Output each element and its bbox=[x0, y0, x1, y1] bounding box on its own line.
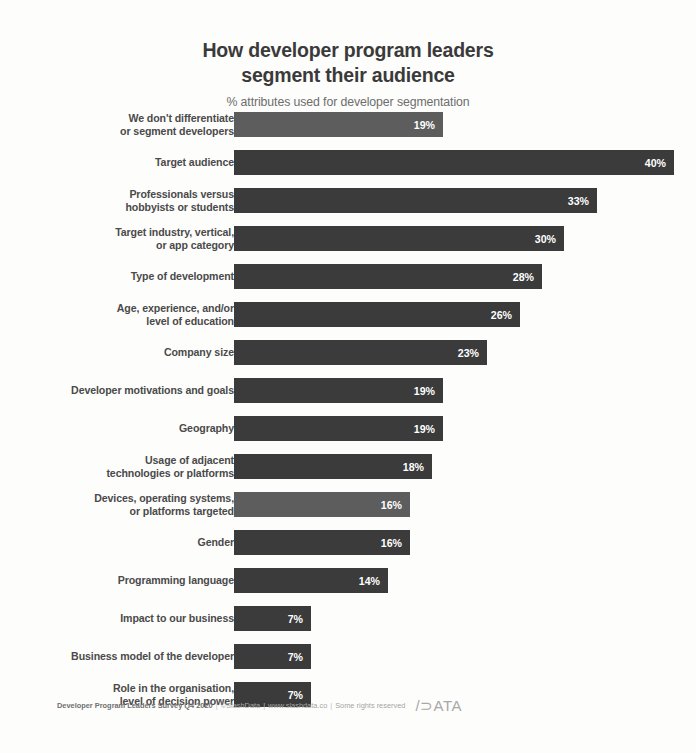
bar-category-label-line-1: Role in the organisation, bbox=[113, 682, 234, 694]
footer-copyright: ©SlashData bbox=[221, 701, 261, 710]
bar-category-label-line-1: Geography bbox=[179, 422, 234, 434]
bar-track: 33% bbox=[234, 188, 684, 213]
bar-category-label: Impact to our business bbox=[22, 606, 234, 625]
bar-value-label: 28% bbox=[513, 271, 534, 283]
footer-rights: Some rights reserved bbox=[335, 701, 405, 710]
bar-track: 7% bbox=[234, 606, 684, 631]
bar-value-label: 14% bbox=[359, 575, 380, 587]
bar-track: 19% bbox=[234, 112, 684, 137]
chart-figure: How developer program leaders segment th… bbox=[0, 0, 696, 753]
bar-track: 7% bbox=[234, 644, 684, 669]
bar-row: Geography19% bbox=[0, 416, 696, 454]
bar[interactable]: 16% bbox=[234, 492, 410, 517]
bar-category-label: Geography bbox=[22, 416, 234, 435]
bar-track: 19% bbox=[234, 416, 684, 441]
bar-track: 26% bbox=[234, 302, 684, 327]
slashdata-logo: /⊃ATA bbox=[415, 698, 462, 713]
bar-track: 18% bbox=[234, 454, 684, 479]
bar-category-label: Programming language bbox=[22, 568, 234, 587]
bar-value-label: 26% bbox=[491, 309, 512, 321]
bar-category-label-line-1: Target audience bbox=[155, 156, 234, 168]
bar-row: Target industry, vertical,or app categor… bbox=[0, 226, 696, 264]
bar-row: Type of development28% bbox=[0, 264, 696, 302]
bar[interactable]: 19% bbox=[234, 378, 443, 403]
bar[interactable]: 19% bbox=[234, 416, 443, 441]
bar-value-label: 19% bbox=[414, 385, 435, 397]
bar-value-label: 33% bbox=[568, 195, 589, 207]
bar-category-label: Company size bbox=[22, 340, 234, 359]
bar[interactable]: 26% bbox=[234, 302, 520, 327]
bar[interactable]: 23% bbox=[234, 340, 487, 365]
chart-footer: Developer Program Leaders Survey Q4 2020… bbox=[57, 698, 657, 713]
page-title: How developer program leaders segment th… bbox=[0, 38, 696, 88]
bar-row: Usage of adjacenttechnologies or platfor… bbox=[0, 454, 696, 492]
bar[interactable]: 33% bbox=[234, 188, 597, 213]
bar-row: Target audience40% bbox=[0, 150, 696, 188]
bar-category-label: Type of development bbox=[22, 264, 234, 283]
bar-value-label: 7% bbox=[288, 613, 303, 625]
bar-value-label: 23% bbox=[458, 347, 479, 359]
bar-track: 28% bbox=[234, 264, 684, 289]
bar-category-label: Business model of the developer bbox=[22, 644, 234, 663]
bar-row: Gender16% bbox=[0, 530, 696, 568]
bar[interactable]: 14% bbox=[234, 568, 388, 593]
bar-category-label: Age, experience, and/orlevel of educatio… bbox=[22, 302, 234, 328]
bar-category-label-line-2: or platforms targeted bbox=[130, 505, 234, 517]
bar-category-label-line-2: or app category bbox=[156, 239, 234, 251]
bar-category-label: Gender bbox=[22, 530, 234, 549]
bar[interactable]: 18% bbox=[234, 454, 432, 479]
footer-website-link[interactable]: www.slashdata.co bbox=[268, 701, 327, 710]
bar[interactable]: 28% bbox=[234, 264, 542, 289]
bar-track: 16% bbox=[234, 530, 684, 555]
bar-category-label-line-1: Professionals versus bbox=[129, 188, 234, 200]
bar-category-label-line-2: level of education bbox=[146, 315, 234, 327]
bar-row: Devices, operating systems,or platforms … bbox=[0, 492, 696, 530]
bar-category-label-line-1: Business model of the developer bbox=[71, 650, 234, 662]
bar-category-label: Target audience bbox=[22, 150, 234, 169]
bar-value-label: 16% bbox=[381, 537, 402, 549]
bar-category-label-line-1: Developer motivations and goals bbox=[71, 384, 234, 396]
bar-category-label: Devices, operating systems,or platforms … bbox=[22, 492, 234, 518]
bar[interactable]: 16% bbox=[234, 530, 410, 555]
bar-chart-plot-area: We don't differentiateor segment develop… bbox=[0, 112, 696, 720]
bar[interactable]: 7% bbox=[234, 606, 311, 631]
bar-category-label: Target industry, vertical,or app categor… bbox=[22, 226, 234, 252]
bar-row: Age, experience, and/orlevel of educatio… bbox=[0, 302, 696, 340]
bar-value-label: 18% bbox=[403, 461, 424, 473]
chart-title-line-1: How developer program leaders bbox=[202, 39, 493, 61]
bar[interactable]: 30% bbox=[234, 226, 564, 251]
bar-category-label-line-2: technologies or platforms bbox=[106, 467, 234, 479]
bar-track: 16% bbox=[234, 492, 684, 517]
bar-track: 40% bbox=[234, 150, 684, 175]
bar-track: 30% bbox=[234, 226, 684, 251]
bar[interactable]: 7% bbox=[234, 644, 311, 669]
bar-row: Impact to our business7% bbox=[0, 606, 696, 644]
bar-row: We don't differentiateor segment develop… bbox=[0, 112, 696, 150]
bar-category-label: We don't differentiateor segment develop… bbox=[22, 112, 234, 138]
bar-value-label: 40% bbox=[645, 157, 666, 169]
bar-track: 23% bbox=[234, 340, 684, 365]
bar-track: 14% bbox=[234, 568, 684, 593]
footer-source: Developer Program Leaders Survey Q4 2020 bbox=[57, 701, 213, 710]
bar-row: Programming language14% bbox=[0, 568, 696, 606]
bar-row: Developer motivations and goals19% bbox=[0, 378, 696, 416]
bar-category-label-line-2: hobbyists or students bbox=[125, 201, 234, 213]
bar-row: Company size23% bbox=[0, 340, 696, 378]
bar-row: Professionals versushobbyists or student… bbox=[0, 188, 696, 226]
bar[interactable]: 40% bbox=[234, 150, 674, 175]
bar-value-label: 16% bbox=[381, 499, 402, 511]
footer-separator-2: | bbox=[263, 701, 265, 710]
footer-separator-3: | bbox=[330, 701, 332, 710]
footer-separator-1: | bbox=[216, 701, 218, 710]
bar-category-label-line-1: Target industry, vertical, bbox=[115, 226, 234, 238]
bar-category-label-line-1: Gender bbox=[198, 536, 235, 548]
bar-category-label: Developer motivations and goals bbox=[22, 378, 234, 397]
bar-track: 19% bbox=[234, 378, 684, 403]
bar-category-label: Usage of adjacenttechnologies or platfor… bbox=[22, 454, 234, 480]
bar-value-label: 30% bbox=[535, 233, 556, 245]
bar-category-label-line-1: Impact to our business bbox=[120, 612, 234, 624]
bar-category-label-line-1: Company size bbox=[164, 346, 234, 358]
bar-value-label: 19% bbox=[414, 119, 435, 131]
bar[interactable]: 19% bbox=[234, 112, 443, 137]
bar-category-label-line-1: Programming language bbox=[118, 574, 234, 586]
